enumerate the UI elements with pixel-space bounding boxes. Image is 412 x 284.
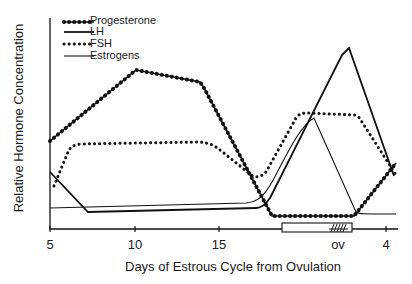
series-progesterone bbox=[50, 70, 396, 216]
x-tick-label: 5 bbox=[46, 237, 53, 252]
legend-label-estrogens: Estrogens bbox=[90, 49, 140, 61]
estrus-bar bbox=[282, 223, 352, 232]
x-axis-title: Days of Estrous Cycle from Ovulation bbox=[125, 259, 341, 274]
x-tick-label: 10 bbox=[128, 237, 142, 252]
y-axis-title: Relative Hormone Concentration bbox=[11, 24, 26, 213]
x-tick-label: 15 bbox=[212, 237, 226, 252]
legend-label-fsh: FSH bbox=[90, 37, 112, 49]
series-estrogens bbox=[50, 118, 396, 214]
legend-label-lh: LH bbox=[90, 25, 104, 37]
series-progesterone-beads bbox=[50, 70, 396, 216]
series-lh bbox=[50, 48, 394, 212]
x-tick-label: 4 bbox=[382, 237, 389, 252]
x-tick-label: ov bbox=[331, 237, 345, 252]
chart-canvas bbox=[0, 0, 412, 284]
